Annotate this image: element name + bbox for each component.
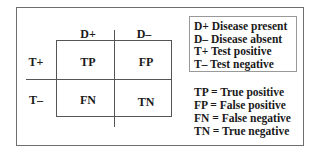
definition-item: TN = True negative: [194, 125, 291, 138]
legend-item: T+ Test positive: [194, 45, 296, 58]
cell-false-positive: FP: [134, 56, 158, 68]
definition-item: FP = False positive: [194, 99, 291, 112]
column-header-disease-present: D+: [78, 28, 98, 40]
row-header-test-negative: T–: [26, 94, 46, 106]
row-header-test-positive: T+: [26, 56, 46, 68]
definition-item: FN = False negative: [194, 112, 291, 125]
definitions-list: TP = True positive FP = False positive F…: [194, 86, 291, 138]
cell-true-negative: TN: [134, 96, 158, 108]
cell-false-negative: FN: [76, 94, 100, 106]
legend-item: D+ Disease present: [194, 20, 296, 33]
horizontal-divider: [26, 79, 172, 80]
definition-item: TP = True positive: [194, 86, 291, 99]
column-header-disease-absent: D–: [134, 28, 154, 40]
abbreviation-legend: D+ Disease present D– Disease absent T+ …: [189, 16, 297, 72]
cell-true-positive: TP: [76, 56, 100, 68]
legend-item: T– Test negative: [194, 58, 296, 71]
legend-item: D– Disease absent: [194, 33, 296, 46]
